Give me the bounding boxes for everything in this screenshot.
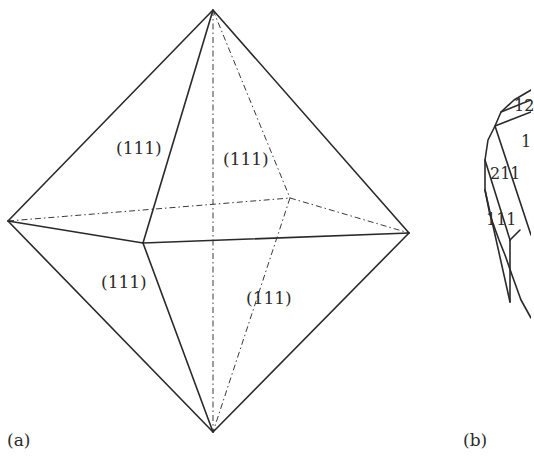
edge-front-bottom [143,243,213,432]
edge-left-bottom [8,221,213,432]
crystal-b-edge-inner-3 [510,230,520,240]
face-label-lower-right: (111) [246,290,292,307]
crystal-b-label-211: 211 [490,166,521,182]
crystal-b-outline [485,90,531,318]
hidden-edge-left-back [8,198,290,221]
edge-top-right [213,10,409,233]
crystal-b-label-1: 1 [521,134,531,150]
crystal-b-label-12: 12 [514,98,534,114]
visible-edges [8,10,409,432]
face-label-lower-left: (111) [101,274,147,291]
hidden-edge-back-right [290,198,409,233]
panel-label-b: (b) [463,432,487,449]
crystal-b-edges [485,90,531,318]
hidden-edges [8,10,409,432]
face-label-upper-left: (111) [116,140,162,157]
edge-top-left [8,10,213,221]
hidden-edge-back-bottom [213,198,290,432]
crystal-b-label-111: 111 [486,212,517,228]
hidden-edge-top-back [213,10,290,198]
edge-right-bottom [213,233,409,432]
crystal-b-edge-inner-4 [485,190,510,302]
panel-label-a: (a) [7,432,30,449]
face-label-upper-right: (111) [223,151,269,168]
edge-left-front [8,221,143,243]
